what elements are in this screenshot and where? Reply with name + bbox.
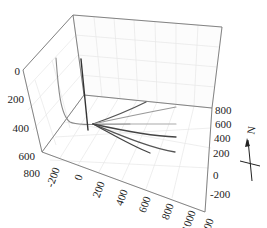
back-wall-grid: [73, 15, 222, 108]
series-branch-5: [93, 124, 175, 152]
series-branch-2: [93, 107, 176, 124]
svg-text:800: 800: [215, 104, 232, 116]
svg-text:0: 0: [15, 65, 21, 77]
svg-text:600: 600: [19, 150, 36, 162]
svg-text:600: 600: [136, 194, 153, 214]
svg-text:200: 200: [90, 179, 107, 199]
svg-text:400: 400: [13, 122, 30, 134]
svg-text:400: 400: [214, 132, 231, 144]
y-axis-ticks: 800 600 400 200 0 -200: [210, 104, 232, 200]
svg-text:200: 200: [213, 147, 230, 159]
svg-text:-200: -200: [44, 165, 62, 189]
svg-text:1000: 1000: [179, 208, 198, 228]
svg-text:800: 800: [24, 167, 41, 179]
svg-text:400: 400: [113, 187, 130, 207]
svg-text:600: 600: [215, 118, 232, 130]
svg-text:N: N: [244, 125, 257, 135]
x-axis-ticks: -200 0 200 400 600 800 1000 1200: [44, 165, 216, 228]
svg-text:0: 0: [213, 169, 219, 181]
north-arrow-icon: N: [240, 125, 260, 181]
svg-text:-200: -200: [210, 188, 231, 200]
series-branch-1: [93, 102, 146, 124]
series-branch-6: [93, 124, 150, 153]
svg-text:200: 200: [8, 93, 25, 105]
left-wall-grid: [23, 15, 84, 152]
svg-text:800: 800: [159, 201, 176, 221]
svg-text:0: 0: [72, 172, 85, 182]
3d-chart: 0 200 400 600 800 -200 0 200 400 600 800…: [0, 0, 267, 228]
svg-text:1200: 1200: [197, 216, 216, 228]
